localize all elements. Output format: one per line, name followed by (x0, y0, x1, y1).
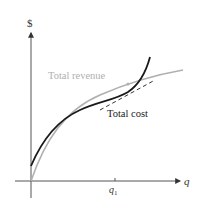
total-cost-label: Total cost (107, 108, 148, 119)
x-axis-label: q (184, 175, 190, 187)
total-revenue-curve (31, 70, 183, 181)
revenue-point (127, 83, 130, 86)
y-axis-label: $ (27, 17, 33, 29)
total-revenue-label: Total revenue (48, 70, 106, 81)
cost-revenue-diagram: $ q q1 Total revenue Total cost (0, 0, 200, 208)
q1-tick-label: q1 (109, 184, 118, 197)
